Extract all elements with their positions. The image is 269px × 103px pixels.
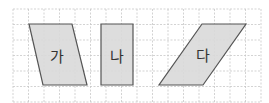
shape-label-da: 다 — [196, 44, 210, 65]
shape-label-ga: 가 — [50, 45, 64, 66]
grid-diagram — [0, 0, 269, 103]
shape-label-na: 나 — [110, 45, 124, 66]
